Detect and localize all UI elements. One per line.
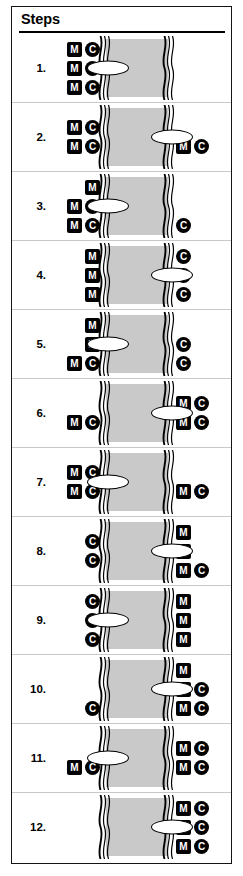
missionary-token: M [67, 484, 82, 499]
cannibal-token: C [176, 337, 191, 352]
token-row [85, 395, 100, 413]
boat [151, 130, 193, 145]
missionary-token: M [176, 563, 191, 578]
token-row [176, 316, 191, 334]
empty-slot [85, 801, 100, 816]
token-row: C [176, 247, 191, 265]
step-row: 2.MCMCMC [12, 103, 231, 172]
token-row: MC [67, 216, 100, 234]
right-shore-tokens: C [176, 172, 230, 240]
river-scene: MMCMCC [50, 172, 230, 240]
token-row [85, 818, 100, 836]
missionary-token: M [176, 760, 191, 775]
boat [87, 199, 129, 214]
step-row: 4.MMMCCC [12, 241, 231, 310]
missionary-token: M [85, 318, 100, 333]
step-number: 2. [20, 131, 46, 143]
left-bank-waves [98, 657, 114, 721]
step-number: 8. [20, 545, 46, 557]
step-row: 9.CCCMMM [12, 586, 231, 655]
step-row: 12.MCMCMC [12, 793, 231, 861]
river-scene: CCCMMM [50, 586, 230, 654]
token-row [176, 178, 191, 196]
river-scene: MMMCCC [50, 241, 230, 309]
token-row [176, 78, 191, 96]
token-row: MC [67, 119, 100, 137]
step-number: 7. [20, 476, 46, 488]
right-shore-tokens: MC [176, 448, 230, 516]
missionary-token: M [176, 613, 191, 628]
steps-panel: Steps 1.MCMCMC2.MCMCMC3.MMCMCC4.MMMCCC5.… [11, 6, 232, 864]
missionary-token: M [176, 484, 191, 499]
missionary-token: M [67, 42, 82, 57]
river-scene: MCMCMC [50, 793, 230, 861]
token-row: C [85, 533, 100, 551]
step-row: 3.MMCMCC [12, 172, 231, 241]
token-row [85, 680, 100, 698]
step-number: 1. [20, 62, 46, 74]
cannibal-token: C [176, 218, 191, 233]
river-scene: CMMCMC [50, 655, 230, 723]
cannibal-token: C [85, 632, 100, 647]
step-number: 6. [20, 407, 46, 419]
empty-slot [85, 839, 100, 854]
right-shore-tokens: MMM [176, 586, 230, 654]
cannibal-token: C [194, 682, 209, 697]
token-row: C [176, 354, 191, 372]
token-row: MC [176, 483, 209, 501]
token-row: C [85, 699, 100, 717]
token-row: M [85, 285, 100, 303]
step-number: 12. [20, 821, 46, 833]
token-row: M [176, 661, 191, 679]
empty-slot [85, 396, 100, 411]
token-row: MC [67, 414, 100, 432]
empty-slot [85, 682, 100, 697]
cannibal-token: C [85, 534, 100, 549]
empty-slot [176, 80, 191, 95]
token-row: M [176, 630, 191, 648]
cannibal-token: C [85, 594, 100, 609]
cannibal-token: C [85, 701, 100, 716]
left-shore-tokens [50, 793, 100, 861]
token-row: C [176, 285, 191, 303]
empty-slot [176, 42, 191, 57]
river-scene: MCMCMC [50, 34, 230, 102]
cannibal-token: C [194, 139, 209, 154]
boat [87, 337, 129, 352]
token-row: MC [176, 837, 209, 855]
token-row [176, 40, 191, 58]
token-row: M [85, 247, 100, 265]
token-row [176, 464, 191, 482]
step-row: 8.CCMMMC [12, 517, 231, 586]
right-shore-tokens: CC [176, 310, 230, 378]
boat [87, 475, 129, 490]
missionary-token: M [176, 594, 191, 609]
cannibal-token: C [194, 484, 209, 499]
token-row: M [85, 178, 100, 196]
cannibal-token: C [194, 701, 209, 716]
cannibal-token: C [176, 287, 191, 302]
token-row: MC [176, 561, 209, 579]
page-title: Steps [21, 11, 60, 27]
step-row: 1.MCMCMC [12, 34, 231, 103]
missionary-token: M [67, 80, 82, 95]
missionary-token: M [85, 180, 100, 195]
token-row: M [85, 316, 100, 334]
cannibal-token: C [194, 760, 209, 775]
boat [151, 544, 193, 559]
token-row: MC [176, 799, 209, 817]
token-row: M [176, 611, 191, 629]
boat [87, 751, 129, 766]
step-number: 3. [20, 200, 46, 212]
steps-list: 1.MCMCMC2.MCMCMC3.MMCMCC4.MMMCCC5.MMMCCC… [12, 34, 231, 861]
empty-slot [176, 180, 191, 195]
missionary-token: M [67, 218, 82, 233]
river-scene: MMMCCC [50, 310, 230, 378]
missionary-token: M [67, 465, 82, 480]
token-row: MC [67, 78, 100, 96]
cannibal-token: C [194, 839, 209, 854]
cannibal-token: C [85, 80, 100, 95]
cannibal-token: C [194, 741, 209, 756]
missionary-token: M [176, 801, 191, 816]
missionary-token: M [67, 415, 82, 430]
